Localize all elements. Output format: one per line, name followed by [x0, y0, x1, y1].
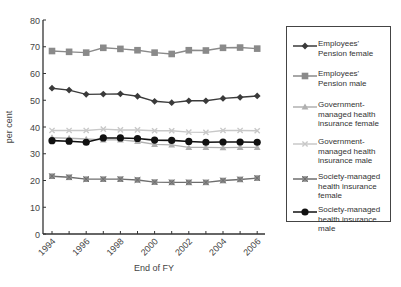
legend-label: Employees' Pension male — [318, 69, 390, 88]
y-tick-label: 60 — [30, 69, 40, 79]
series-line — [49, 44, 261, 57]
x-tick-label: 2002 — [173, 236, 194, 257]
x-tick-label: 1998 — [105, 236, 126, 257]
circle-marker-icon — [293, 208, 317, 216]
y-tick-label: 0 — [35, 230, 40, 240]
y-tick-label: 50 — [30, 96, 40, 106]
y-tick-label: 40 — [30, 123, 40, 133]
y-tick-label: 80 — [30, 16, 40, 26]
legend-label: Society-managed health insurance male — [318, 205, 390, 234]
x-tick-label: 1994 — [36, 236, 57, 257]
series-line — [49, 85, 261, 106]
x-axis-label: End of FY — [134, 263, 174, 273]
x-square-marker-icon — [293, 175, 317, 183]
x-tick-label: 2006 — [241, 236, 262, 257]
y-tick-label: 70 — [30, 42, 40, 52]
y-tick-label: 20 — [30, 176, 40, 186]
legend-label: Government-managed health insurance male — [318, 137, 390, 166]
x-tick-label: 2000 — [139, 236, 160, 257]
square-marker-icon — [293, 72, 317, 80]
y-axis-label: per cent — [4, 110, 14, 143]
triangle-marker-icon — [293, 103, 317, 111]
legend: Employees' Pension female Employees' Pen… — [286, 26, 391, 222]
legend-label: Society-managed health insurance female — [318, 172, 390, 201]
series-line — [49, 173, 260, 185]
series-group — [48, 44, 260, 185]
legend-label: Employees' Pension female — [318, 39, 390, 58]
x-tick-label: 2004 — [207, 236, 228, 257]
x-tick-label: 1996 — [70, 236, 91, 257]
x-marker-icon — [293, 140, 317, 148]
y-tick-label: 10 — [30, 203, 40, 213]
series-line — [49, 127, 259, 135]
diamond-marker-icon — [293, 42, 317, 50]
y-tick-label: 30 — [30, 149, 40, 159]
legend-label: Government-managed health insurance fema… — [318, 100, 390, 129]
